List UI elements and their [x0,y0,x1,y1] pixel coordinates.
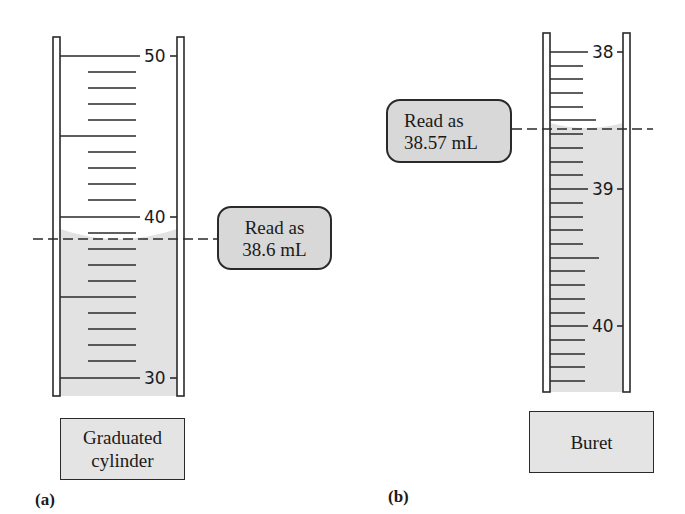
cylinder-right-wall [177,37,184,396]
buret-label-text: Buret [530,431,653,454]
callout-b-line2: 38.57 mL [388,132,510,154]
callout-b-line1: Read as [388,110,510,132]
callout-a-line1: Read as [219,217,330,239]
buret [512,33,653,392]
cylinder-left-wall [53,37,60,396]
buret-left-wall [543,33,550,392]
cylinder-scale-label-50: 50 [143,47,167,65]
buret-scale-label-38: 38 [591,43,615,61]
panel-letter-b: (b) [388,487,409,507]
cylinder-scale-label-40: 40 [143,208,167,226]
buret-reading-callout: Read as 38.57 mL [386,99,512,163]
callout-a-line2: 38.6 mL [219,239,330,261]
cylinder-scale-label-30: 30 [143,369,167,387]
cylinder-label-line1: Graduated [61,426,184,449]
buret-label: Buret [529,411,654,473]
graduated-cylinder-label: Graduated cylinder [60,418,185,480]
buret-scale-label-40: 40 [591,317,615,335]
panel-letter-a: (a) [35,490,55,510]
buret-scale-label-39: 39 [591,180,615,198]
graduated-cylinder [33,37,218,396]
buret-right-wall [623,33,630,392]
cylinder-label-line2: cylinder [61,449,184,472]
cylinder-reading-callout: Read as 38.6 mL [217,206,332,270]
